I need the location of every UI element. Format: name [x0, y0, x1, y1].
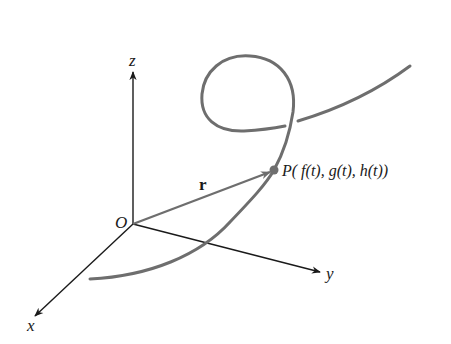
space-curve — [90, 56, 294, 279]
space-curve-diagram: z x y O r P( f(t), g(t), h(t)) — [0, 0, 451, 344]
x-axis-label: x — [26, 316, 35, 335]
y-axis-label: y — [324, 264, 334, 283]
z-axis-label: z — [128, 51, 136, 70]
point-p-label: P( f(t), g(t), h(t)) — [281, 162, 388, 180]
x-axis — [35, 224, 133, 316]
space-curve-tail — [298, 66, 410, 121]
origin-label: O — [115, 213, 127, 232]
point-p-marker — [270, 166, 279, 175]
vector-r-label: r — [199, 175, 207, 194]
